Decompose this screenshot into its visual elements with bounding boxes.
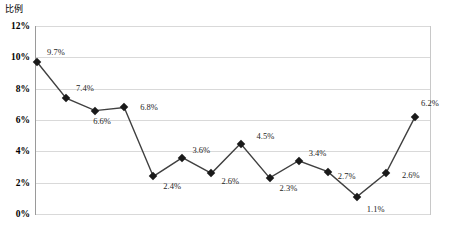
data-point-label: 6.8% bbox=[140, 103, 158, 112]
data-point-label: 6.2% bbox=[421, 99, 439, 108]
y-axis-tick-label: 6% bbox=[0, 115, 30, 125]
y-axis-title: 比例 bbox=[5, 4, 23, 14]
data-point-label: 2.3% bbox=[280, 184, 298, 193]
plot-area: 9.7%7.4%6.6%6.8%2.4%3.6%2.6%4.5%2.3%3.4%… bbox=[36, 26, 430, 214]
data-point-label: 2.6% bbox=[402, 171, 420, 180]
y-axis-tick-label: 10% bbox=[0, 52, 30, 62]
y-axis-tick-label: 0% bbox=[0, 209, 30, 219]
y-axis-tick-label: 8% bbox=[0, 84, 30, 94]
gridline bbox=[36, 214, 430, 215]
data-point-label: 3.4% bbox=[309, 149, 327, 158]
data-point-label: 2.7% bbox=[338, 172, 356, 181]
plot-right-border bbox=[430, 26, 431, 215]
y-axis-tick-label: 2% bbox=[0, 178, 30, 188]
data-point-label: 1.1% bbox=[367, 205, 385, 214]
data-point-label: 2.4% bbox=[163, 182, 181, 191]
y-axis-tick-label: 12% bbox=[0, 21, 30, 31]
data-point-label: 2.6% bbox=[221, 177, 239, 186]
data-point-label: 6.6% bbox=[93, 117, 105, 126]
data-point-label: 3.6% bbox=[192, 146, 210, 155]
data-point-label: 7.4% bbox=[76, 84, 94, 93]
data-point-label: 4.5% bbox=[257, 132, 275, 141]
line-chart: 比例 0%2%4%6%8%10%12% 9.7%7.4%6.6%6.8%2.4%… bbox=[0, 0, 449, 244]
data-point-label: 9.7% bbox=[47, 48, 65, 57]
y-axis-tick-label: 4% bbox=[0, 146, 30, 156]
